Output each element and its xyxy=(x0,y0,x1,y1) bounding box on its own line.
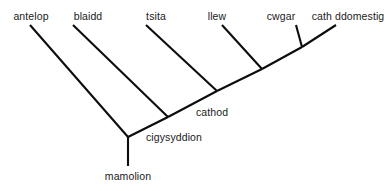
leaf-text-llew: llew xyxy=(208,10,227,22)
leaf-label-cath-ddomestig: cath ddomestig xyxy=(305,10,391,22)
node-text-cathod: cathod xyxy=(196,106,228,118)
branch-blaidd xyxy=(73,25,168,117)
leaf-text-tsita: tsita xyxy=(146,10,166,22)
node-label-cigysyddion: cigysyddion xyxy=(146,131,202,143)
leaf-label-antelop: antelop xyxy=(0,10,62,22)
branch-cwgar xyxy=(296,25,302,47)
leaf-label-blaidd: blaidd xyxy=(58,10,118,22)
branch-cath-ddomestig xyxy=(302,25,336,47)
leaf-label-llew: llew xyxy=(190,10,244,22)
branch-tsita xyxy=(146,25,217,91)
node-label-mamolion: mamolion xyxy=(100,170,156,182)
leaf-text-blaidd: blaidd xyxy=(74,10,103,22)
node-text-mamolion: mamolion xyxy=(105,170,151,182)
cladogram-canvas: antelop blaidd tsita llew cwgar cath ddo… xyxy=(0,0,392,191)
node-label-cathod: cathod xyxy=(196,106,228,118)
leaf-text-cath-ddomestig: cath ddomestig xyxy=(312,10,385,22)
leaf-text-antelop: antelop xyxy=(13,10,48,22)
leaf-label-tsita: tsita xyxy=(128,10,184,22)
leaf-label-cwgar: cwgar xyxy=(252,10,310,22)
branch-antelop xyxy=(30,25,128,137)
branch-llew xyxy=(222,25,262,69)
branch-llew-node-to-cwgar-node xyxy=(262,47,302,69)
branch-cathod-to-llew-node xyxy=(217,69,262,91)
node-text-cigysyddion: cigysyddion xyxy=(146,131,202,143)
leaf-text-cwgar: cwgar xyxy=(267,10,296,22)
cladogram-lines xyxy=(0,0,392,191)
